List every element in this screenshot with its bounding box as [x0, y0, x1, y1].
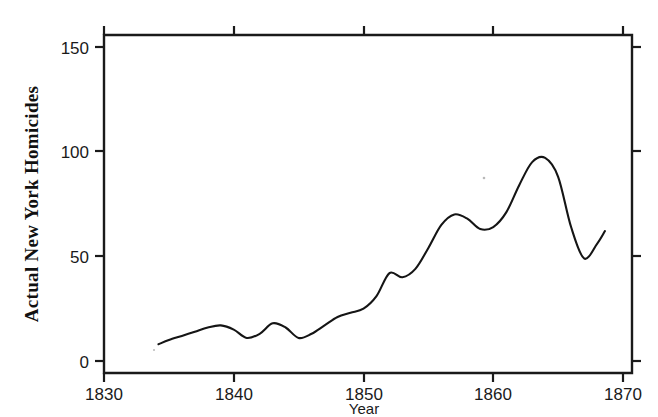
scan-speck: [153, 349, 155, 351]
x-axis-ticks-top: [104, 26, 623, 35]
y-tick-label-0: 0: [80, 353, 89, 372]
y-axis-tick-labels: 150 100 50 0: [61, 39, 89, 372]
x-axis-ticks-bottom: [104, 373, 623, 382]
y-tick-label-150: 150: [61, 39, 89, 58]
x-tick-label-1870: 1870: [604, 385, 642, 404]
line-chart-canvas: 150 100 50 0 1830 1840 1850 1860 1870 Ye…: [0, 0, 658, 417]
y-axis-title: Actual New York Homicides: [21, 86, 42, 322]
scan-speck: [483, 177, 486, 180]
plot-frame: [104, 35, 632, 373]
chart-figure: 150 100 50 0 1830 1840 1850 1860 1870 Ye…: [0, 0, 658, 417]
y-axis-ticks-right: [632, 47, 641, 361]
x-tick-label-1860: 1860: [474, 385, 512, 404]
y-tick-label-50: 50: [70, 248, 89, 267]
y-axis-ticks-left: [95, 47, 104, 361]
y-tick-label-100: 100: [61, 143, 89, 162]
x-tick-label-1830: 1830: [85, 385, 123, 404]
x-tick-label-1840: 1840: [215, 385, 253, 404]
data-series-line: [159, 157, 605, 344]
x-axis-title: Year: [349, 400, 379, 417]
